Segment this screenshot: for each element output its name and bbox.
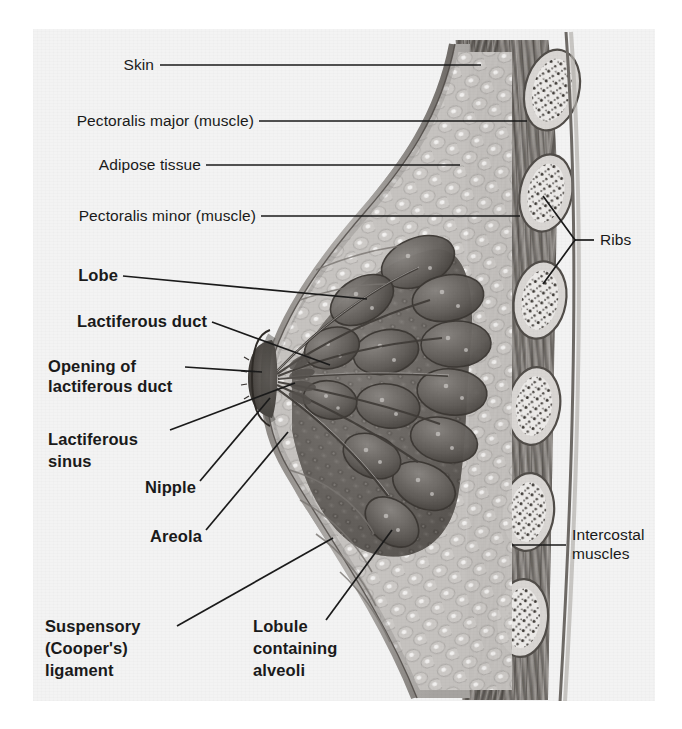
label-intercostal-muscles-line2: muscles xyxy=(572,545,630,563)
label-lactiferous-sinus-line2: sinus xyxy=(48,452,92,471)
label-lobule-containing-alveoli-line2: containing xyxy=(253,639,337,658)
label-suspensory-ligament-line2: (Cooper's) xyxy=(45,639,128,658)
leader-areola xyxy=(206,432,288,530)
label-lobule-containing-alveoli-line3: alveoli xyxy=(253,661,305,680)
figure-page: Skin Pectoralis major (muscle) Adipose t… xyxy=(0,0,682,729)
label-lactiferous-sinus-line1: Lactiferous xyxy=(48,430,138,449)
label-ribs: Ribs xyxy=(600,231,631,249)
label-pectoralis-major: Pectoralis major (muscle) xyxy=(38,112,254,130)
label-areola: Areola xyxy=(60,527,202,546)
label-lobule-containing-alveoli-line1: Lobule xyxy=(253,617,308,636)
label-suspensory-ligament-line3: ligament xyxy=(45,661,114,680)
label-lobe: Lobe xyxy=(18,266,118,285)
label-skin: Skin xyxy=(38,56,154,74)
label-pectoralis-minor: Pectoralis minor (muscle) xyxy=(38,207,256,225)
label-intercostal-muscles-line1: Intercostal xyxy=(572,526,645,544)
label-suspensory-ligament-line1: Suspensory xyxy=(45,617,140,636)
label-opening-of-lactiferous-duct-line2: lactiferous duct xyxy=(48,377,172,396)
leader-suspensory xyxy=(177,538,333,626)
label-opening-of-lactiferous-duct-line1: Opening of xyxy=(48,357,136,376)
label-adipose-tissue: Adipose tissue xyxy=(38,156,201,174)
leader-nipple xyxy=(200,398,270,481)
label-lactiferous-duct: Lactiferous duct xyxy=(18,312,207,331)
label-nipple: Nipple xyxy=(60,478,196,497)
